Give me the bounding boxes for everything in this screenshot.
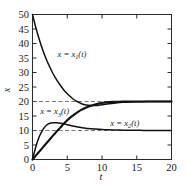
- plot-frame: [33, 15, 172, 160]
- x-axis-tick-labels: 05101520: [30, 162, 177, 173]
- y-tick-label: 35: [19, 53, 30, 64]
- y-axis-title: x: [1, 87, 12, 93]
- curve-x3: [33, 123, 172, 160]
- figure-container: 05101520 05101520253035404550 x = x1(t)x…: [0, 0, 187, 185]
- x-axis-tickmarks: [33, 15, 172, 160]
- y-tick-label: 15: [19, 111, 30, 122]
- label-x1: x = x1(t): [57, 49, 87, 60]
- label-x3: x = x3(t): [39, 106, 69, 117]
- line-chart: 05101520 05101520253035404550 x = x1(t)x…: [0, 0, 187, 185]
- x-axis-title: t: [100, 171, 104, 182]
- y-axis-tickmarks: [33, 15, 172, 160]
- curve-x1: [33, 15, 172, 106]
- x-tick-label: 0: [30, 162, 35, 173]
- y-tick-label: 0: [24, 154, 29, 165]
- x-tick-label: 15: [132, 162, 143, 173]
- y-axis-tick-labels: 05101520253035404550: [19, 9, 30, 165]
- y-tick-label: 25: [19, 82, 30, 93]
- label-x2: x = x2(t): [109, 118, 139, 129]
- y-tick-label: 30: [19, 67, 30, 78]
- y-tick-label: 50: [19, 9, 30, 20]
- y-tick-label: 40: [19, 38, 30, 49]
- y-tick-label: 10: [19, 125, 30, 136]
- x-tick-label: 5: [65, 162, 70, 173]
- x-tick-label: 20: [166, 162, 177, 173]
- curve-annotations: x = x1(t)x = x3(t)x = x2(t): [39, 49, 139, 130]
- y-tick-label: 20: [19, 96, 30, 107]
- y-tick-label: 5: [24, 140, 29, 151]
- y-tick-label: 45: [19, 24, 30, 35]
